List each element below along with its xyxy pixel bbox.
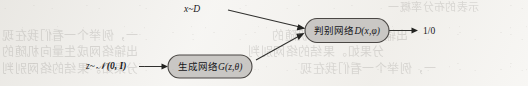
label-latent-distribution: z~𝒩(0, I) (85, 61, 126, 72)
edge-real-data-to-discriminator (228, 10, 306, 31)
node-generator-label: 生成网络G(z,θ) (178, 61, 243, 73)
gan-architecture-figure: 示表的布分率概一 一，例举个一看们我在现 出输络网成生量向机随的 分果如。果结的… (0, 0, 528, 86)
edge-latent-to-generator (139, 64, 168, 70)
label-real-data-distribution: x~D (183, 4, 200, 14)
label-output-decision: 1/0 (423, 26, 435, 36)
diagram-canvas: 判别网络D(x,φ) 生成网络G(z,θ) x~D z~𝒩(0, I) 1/0 (0, 0, 528, 86)
edge-generator-to-discriminator (256, 33, 305, 60)
node-discriminator-label: 判别网络D(x,φ) (314, 25, 380, 37)
node-discriminator[interactable]: 判别网络D(x,φ) (305, 19, 389, 43)
edge-discriminator-to-output (389, 28, 418, 34)
node-generator[interactable]: 生成网络G(z,θ) (168, 55, 252, 78)
